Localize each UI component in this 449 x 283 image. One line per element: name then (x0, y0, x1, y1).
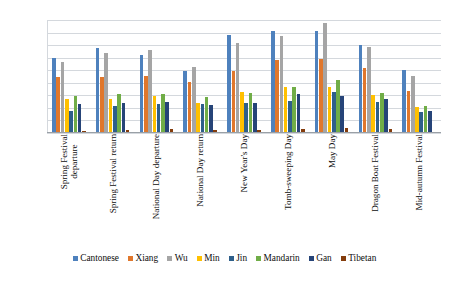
x-axis-label-cell: Dragon Boat Festival (353, 134, 397, 238)
bar[interactable] (153, 96, 157, 133)
legend-swatch-icon (73, 256, 78, 261)
bar[interactable] (292, 87, 296, 133)
bar[interactable] (407, 91, 411, 133)
bar[interactable] (104, 53, 108, 133)
x-axis-tick-label: New Year's Day (239, 134, 249, 192)
bar[interactable] (240, 92, 244, 133)
x-axis-label-cell: Spring Festival return (91, 134, 135, 238)
bar[interactable] (227, 35, 231, 133)
bar[interactable] (232, 71, 236, 133)
bar[interactable] (148, 50, 152, 133)
bar[interactable] (419, 112, 423, 133)
x-axis-tick-label: Dragon Boat Festival (370, 134, 380, 212)
x-axis-tick-label: Tomb-sweeping Day (283, 134, 293, 210)
bar[interactable] (367, 47, 371, 133)
bar[interactable] (113, 106, 117, 133)
bar[interactable] (253, 103, 257, 133)
bar[interactable] (271, 31, 275, 133)
x-axis-label-cell: Tomb-sweeping Day (266, 134, 310, 238)
chart-legend: CantoneseXiangWuMinJinMandarinGanTibetan (0, 253, 449, 263)
bar-group (397, 20, 441, 133)
legend-label: Tibetan (348, 253, 376, 263)
bar-group (91, 20, 135, 133)
bar[interactable] (415, 107, 419, 133)
bar[interactable] (275, 60, 279, 133)
bar[interactable] (192, 67, 196, 133)
bar[interactable] (297, 94, 301, 133)
legend-item[interactable]: Min (197, 253, 220, 263)
bar[interactable] (74, 96, 78, 133)
bar[interactable] (284, 87, 288, 133)
bar[interactable] (280, 36, 284, 133)
x-axis-label-cell: May Day (310, 134, 354, 238)
bar-chart: 4500004000003500003000002500002000001500… (0, 0, 449, 283)
bar-group (222, 20, 266, 133)
bar[interactable] (428, 111, 432, 133)
bar[interactable] (69, 111, 73, 133)
bar[interactable] (336, 80, 340, 133)
bar[interactable] (161, 94, 165, 133)
bar[interactable] (196, 103, 200, 133)
legend-label: Gan (316, 253, 332, 263)
legend-label: Min (204, 253, 220, 263)
bar[interactable] (402, 70, 406, 133)
bar[interactable] (328, 87, 332, 133)
bar[interactable] (140, 55, 144, 133)
legend-item[interactable]: Cantonese (73, 253, 119, 263)
bar[interactable] (288, 101, 292, 133)
bar[interactable] (100, 77, 104, 133)
bar[interactable] (188, 82, 192, 133)
bar[interactable] (340, 96, 344, 133)
bar[interactable] (109, 99, 113, 133)
bar-group (178, 20, 222, 133)
x-axis-tick-label: National Day return (195, 134, 205, 207)
bar[interactable] (205, 97, 209, 133)
x-axis-line (47, 132, 441, 133)
bar[interactable] (117, 94, 121, 133)
bar[interactable] (424, 106, 428, 133)
bar[interactable] (157, 104, 161, 133)
x-axis-label-cell: National Day departure (135, 134, 179, 238)
bar[interactable] (315, 31, 319, 133)
legend-item[interactable]: Wu (167, 253, 188, 263)
bar[interactable] (165, 102, 169, 133)
bar[interactable] (96, 48, 100, 133)
bar[interactable] (244, 103, 248, 133)
bar[interactable] (323, 23, 327, 133)
legend-label: Cantonese (80, 253, 119, 263)
bar[interactable] (61, 62, 65, 133)
bar[interactable] (332, 92, 336, 133)
legend-item[interactable]: Gan (309, 253, 332, 263)
bar[interactable] (411, 76, 415, 133)
bar[interactable] (122, 103, 126, 133)
bar[interactable] (319, 59, 323, 133)
bar[interactable] (376, 102, 380, 133)
legend-item[interactable]: Jin (229, 253, 247, 263)
bar[interactable] (209, 105, 213, 133)
bar[interactable] (380, 93, 384, 133)
legend-item[interactable]: Xiang (128, 253, 158, 263)
bar[interactable] (201, 104, 205, 133)
bar[interactable] (384, 99, 388, 133)
bar[interactable] (249, 93, 253, 133)
x-axis-label-cell: Mid-autumn Festival (397, 134, 441, 238)
bar[interactable] (359, 45, 363, 133)
bar[interactable] (371, 95, 375, 133)
bar[interactable] (363, 68, 367, 133)
bar[interactable] (65, 99, 69, 133)
bar-groups (47, 20, 441, 133)
bar[interactable] (183, 71, 187, 133)
legend-item[interactable]: Tibetan (341, 253, 377, 263)
bar[interactable] (236, 43, 240, 133)
legend-label: Mandarin (264, 253, 300, 263)
bar[interactable] (52, 58, 56, 133)
bar[interactable] (56, 77, 60, 133)
x-axis-label-cell: New Year's Day (222, 134, 266, 238)
legend-label: Jin (236, 253, 247, 263)
bar[interactable] (144, 76, 148, 133)
legend-item[interactable]: Mandarin (256, 253, 300, 263)
x-axis-tick-label: May Day (326, 134, 336, 168)
x-axis-tick-label: Spring Festivaldeparture (59, 134, 79, 189)
bar[interactable] (78, 104, 82, 133)
bar-group (135, 20, 179, 133)
